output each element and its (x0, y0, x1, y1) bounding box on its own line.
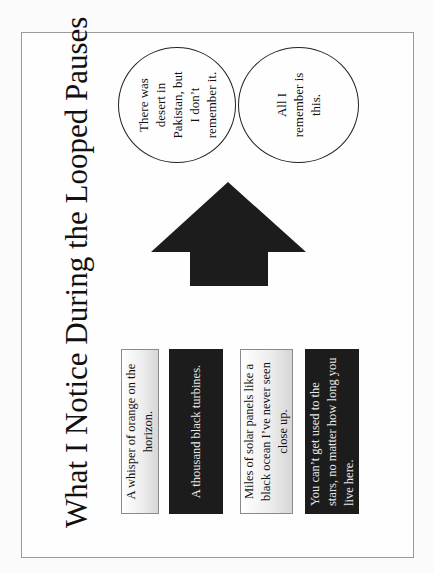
memory-circle-this: All I remember is this. (238, 47, 359, 163)
memory-circle-desert: There was desert in Pakistan, but I don’… (118, 47, 236, 163)
circle-text: All I remember is this. (273, 70, 324, 140)
arrow-icon (151, 182, 306, 286)
slide: What I Notice During the Looped Pauses A… (21, 32, 414, 558)
circle-text: There was desert in Pakistan, but I don’… (135, 70, 220, 140)
